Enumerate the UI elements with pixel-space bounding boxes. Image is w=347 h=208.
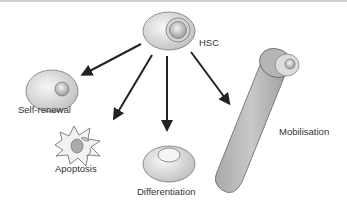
fate-arrows	[84, 44, 228, 128]
differentiated-cell	[143, 146, 195, 182]
label-apoptosis: Apoptosis	[55, 163, 97, 174]
label-differentiation: Differentiation	[137, 186, 195, 197]
apoptotic-cell	[55, 126, 100, 166]
hsc-fate-diagram: HSC Self-renewal Apoptosis Differentiati…	[0, 0, 347, 208]
mobilisation-vessel	[215, 43, 299, 193]
label-self-renewal: Self-renewal	[18, 104, 71, 115]
label-hsc: HSC	[199, 37, 219, 48]
label-mobilisation: Mobilisation	[279, 126, 329, 137]
hsc-cell	[143, 12, 195, 50]
